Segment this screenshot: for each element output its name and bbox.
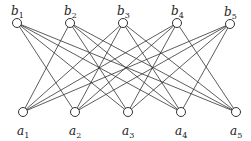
label-a5: a5: [230, 124, 242, 140]
label-a3: a3: [122, 124, 134, 140]
node-a1: [19, 108, 28, 117]
node-a4: [177, 108, 186, 117]
edge-b5-a1: [23, 24, 230, 112]
edge-b3-a1: [23, 23, 123, 112]
label-b1: b1: [11, 4, 24, 20]
edge-b5-a4: [181, 24, 230, 112]
node-a3: [124, 108, 133, 117]
edge-b4-a2: [75, 23, 177, 112]
label-b3: b3: [117, 4, 130, 20]
label-a4: a4: [175, 124, 187, 140]
node-a5: [232, 108, 241, 117]
edge-b5-a3: [128, 24, 230, 112]
edge-b4-a3: [128, 23, 177, 112]
label-b5: b5: [224, 5, 237, 21]
label-a2: a2: [69, 124, 81, 140]
bipartite-graph: b1b2b3b4b5a1a2a3a4a5: [0, 0, 251, 141]
label-b2: b2: [64, 4, 77, 20]
node-a2: [71, 108, 80, 117]
label-a1: a1: [17, 124, 29, 140]
edge-b3-a4: [123, 23, 181, 112]
edge-b4-a5: [177, 23, 236, 112]
label-b4: b4: [171, 4, 184, 20]
edges-group: [17, 23, 236, 112]
